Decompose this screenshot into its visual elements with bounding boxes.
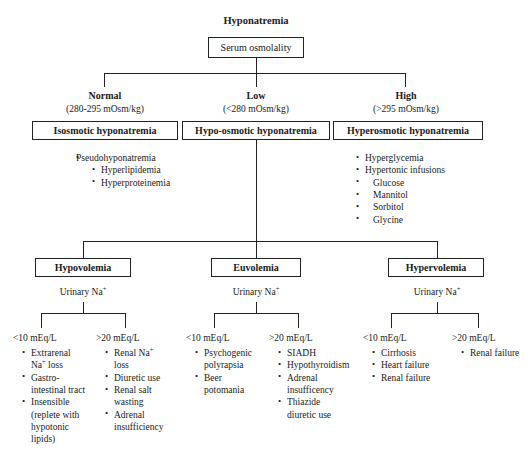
list-item: Heart failure: [372, 359, 447, 371]
connector-bus-hypovolemia-na: [41, 313, 126, 314]
branch-label-low: Low: [247, 91, 266, 102]
urinary-na-label-hypervolemia: Urinary Na+: [414, 288, 461, 298]
connector-stem-hypervolemia-na: [437, 302, 438, 313]
connector-stem-euvolemia-na: [256, 302, 257, 313]
connector-osmolality-bus: [104, 73, 406, 74]
branch-label-normal: Normal: [89, 91, 122, 102]
connector-drop-hypovolemia: [83, 241, 84, 258]
list-item: Renal failure: [461, 347, 531, 359]
connector-root-stem: [256, 58, 257, 73]
list-item: ExtrarenalNa+ loss: [22, 347, 92, 372]
connector-hypoosmotic-stem: [256, 140, 257, 241]
branch-range-low: (<280 mOsm/kg): [223, 105, 289, 115]
diagram-title: Hyponatremia: [223, 15, 288, 26]
list-item: Thiazidediuretic use: [278, 396, 356, 421]
list-item: SIADH: [278, 347, 356, 359]
list-item: Hyperlipidemia: [92, 164, 170, 176]
branch-label-high: High: [395, 91, 416, 102]
connector-drop-euvolemia: [256, 241, 257, 258]
threshold-label-euvolemia-high: >20 mEq/L: [269, 334, 313, 344]
connector-bus-euvolemia-na: [214, 313, 299, 314]
category-box-hyperosmotic[interactable]: Hyperosmotic hyponatremia: [333, 121, 483, 140]
connector-drop-hypervolemia-high: [478, 313, 479, 328]
connector-drop-hypervolemia: [437, 241, 438, 258]
list-item: Gastro-intestinal tract: [22, 372, 92, 397]
urinary-na-superscript: +: [457, 285, 461, 292]
connector-drop-low: [256, 73, 257, 87]
flowchart-canvas: Hyponatremia Serum osmolality Normal (28…: [0, 0, 531, 468]
threshold-label-euvolemia-low: <10 mEq/L: [186, 334, 230, 344]
list-item: Glucose: [356, 177, 445, 189]
list-item: Insensible(replete withhypotoniclipids): [22, 396, 92, 445]
connector-drop-euvolemia-low: [214, 313, 215, 328]
branch-range-high: (>295 mOsm/kg): [373, 105, 439, 115]
leaf-list-euvolemia-low: PsychogenicpolyrapsiaBeerpotomania: [195, 347, 265, 396]
category-box-hypo-osmotic[interactable]: Hypo-osmotic hyponatremia: [182, 121, 330, 140]
list-item: Beerpotomania: [195, 372, 265, 397]
list-item: Psychogenicpolyrapsia: [195, 347, 265, 372]
list-item: Sorbitol: [356, 201, 445, 213]
category-box-isosmotic-label: Isosmotic hyponatremia: [54, 125, 157, 136]
list-item: Diuretic use: [105, 372, 175, 384]
urinary-na-text: Urinary Na: [414, 287, 457, 297]
list-item: Hypertonic infusions: [356, 164, 445, 176]
threshold-label-hypervolemia-high: >20 mEq/L: [452, 334, 496, 344]
list-item: Hyperproteinemia: [92, 177, 170, 189]
root-box-label: Serum osmolality: [221, 42, 292, 53]
volume-box-euvolemia-label: Euvolemia: [233, 262, 279, 273]
urinary-na-text: Urinary Na: [60, 287, 103, 297]
connector-drop-hypovolemia-high: [125, 313, 126, 328]
volume-box-hypovolemia[interactable]: Hypovolemia: [35, 258, 131, 277]
threshold-label-hypovolemia-high: >20 mEq/L: [96, 334, 140, 344]
root-box-serum-osmolality[interactable]: Serum osmolality: [208, 37, 304, 58]
leaf-list-euvolemia-high: SIADHHypothyroidismAdrenalinsufficencyTh…: [278, 347, 356, 421]
connector-drop-hypovolemia-low: [41, 313, 42, 328]
leaf-list-hypervolemia-high: Renal failure: [461, 347, 531, 359]
leaf-list-hypovolemia-high: Renal Na+lossDiuretic useRenal saltwasti…: [105, 347, 175, 433]
hyperosmotic-list: Hyperglycemia Hypertonic infusions Gluco…: [356, 152, 445, 226]
connector-drop-euvolemia-high: [298, 313, 299, 328]
list-item: Renal failure: [372, 372, 447, 384]
connector-stem-hypovolemia-na: [83, 302, 84, 313]
urinary-na-label-hypovolemia: Urinary Na+: [60, 288, 107, 298]
isosmotic-list: Pseudohyponatremia Hyperlipidemia Hyperp…: [76, 152, 170, 189]
branch-range-normal: (280-295 mOsm/kg): [66, 105, 144, 115]
category-box-hyperosmotic-label: Hyperosmotic hyponatremia: [347, 125, 469, 136]
leaf-list-hypervolemia-low: CirrhosisHeart failureRenal failure: [372, 347, 447, 384]
category-box-isosmotic[interactable]: Isosmotic hyponatremia: [32, 121, 178, 140]
connector-bus-hypervolemia-na: [391, 313, 479, 314]
threshold-label-hypovolemia-low: <10 mEq/L: [13, 334, 57, 344]
list-item: Mannitol: [356, 189, 445, 201]
list-item: Renal saltwasting: [105, 384, 175, 409]
leaf-list-hypovolemia-low: ExtrarenalNa+ lossGastro-intestinal trac…: [22, 347, 92, 446]
urinary-na-text: Urinary Na: [233, 287, 276, 297]
list-item: Hyperglycemia: [356, 152, 445, 164]
list-item: Renal Na+loss: [105, 347, 175, 372]
urinary-na-label-euvolemia: Urinary Na+: [233, 288, 280, 298]
connector-drop-high: [405, 73, 406, 87]
list-item: Hypothyroidism: [278, 359, 356, 371]
connector-volume-bus: [83, 241, 438, 242]
volume-box-hypervolemia[interactable]: Hypervolemia: [388, 258, 484, 277]
list-item: Glycine: [356, 214, 445, 226]
list-item: Cirrhosis: [372, 347, 447, 359]
list-item: Adrenalinsufficency: [278, 372, 356, 397]
connector-drop-hypervolemia-low: [391, 313, 392, 328]
category-box-hypo-osmotic-label: Hypo-osmotic hyponatremia: [195, 125, 317, 136]
urinary-na-superscript: +: [103, 285, 107, 292]
volume-box-hypervolemia-label: Hypervolemia: [406, 262, 467, 273]
connector-drop-normal: [104, 73, 105, 87]
list-item: Adrenalinsufficiency: [105, 409, 175, 434]
threshold-label-hypervolemia-low: <10 mEq/L: [363, 334, 407, 344]
volume-box-hypovolemia-label: Hypovolemia: [55, 262, 112, 273]
volume-box-euvolemia[interactable]: Euvolemia: [211, 258, 301, 277]
list-item: Pseudohyponatremia: [76, 152, 170, 164]
urinary-na-superscript: +: [276, 285, 280, 292]
